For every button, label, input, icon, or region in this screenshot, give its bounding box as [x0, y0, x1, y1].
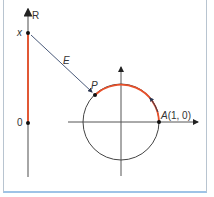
point-label-origin: 0	[17, 117, 23, 128]
wrapping-function-diagram: R x 0 E P A(1, 0)	[0, 0, 214, 197]
point-label-p: P	[91, 80, 98, 91]
highlighted-arc	[95, 85, 159, 122]
point-p-dot	[93, 93, 97, 97]
point-label-a: A(1, 0)	[160, 110, 191, 121]
point-label-x: x	[16, 27, 23, 38]
mapping-arrow	[31, 35, 92, 92]
real-number-line	[26, 9, 30, 177]
mapping-label-e: E	[63, 55, 70, 66]
axis-label-r: R	[32, 10, 39, 21]
point-x-dot	[26, 31, 30, 35]
point-origin-dot	[26, 121, 30, 125]
coordinate-axes	[68, 67, 198, 176]
